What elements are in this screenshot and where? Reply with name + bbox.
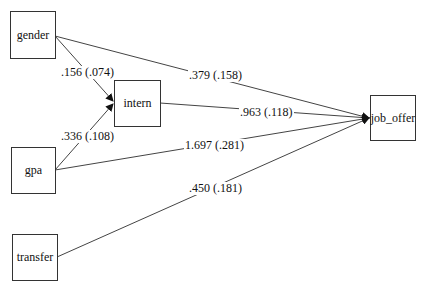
node-gpa-label: gpa [25,163,42,178]
node-job-offer-label: job_offer [371,111,415,126]
node-gender: gender [10,11,56,59]
node-intern-label: intern [124,96,152,111]
node-gender-label: gender [17,28,50,43]
node-transfer: transfer [12,234,58,281]
node-gpa: gpa [11,147,56,194]
edge-label-intern-joboffer: .963 (.118) [239,106,294,119]
edge-label-gpa-joboffer: 1.697 (.281) [184,139,245,152]
edge-label-gender-joboffer: .379 (.158) [188,69,243,82]
edge-label-gender-intern: .156 (.074) [60,66,115,79]
node-intern: intern [114,80,161,127]
node-job-offer: job_offer [370,95,416,141]
node-transfer-label: transfer [17,250,54,265]
edge-label-gpa-intern: .336 (.108) [60,130,115,143]
edge-label-transfer-joboffer: .450 (.181) [188,182,243,195]
